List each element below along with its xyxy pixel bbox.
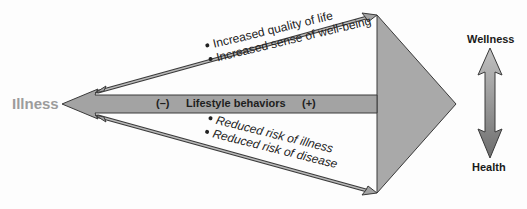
bullet-icon [208,56,213,61]
bullet-icon [205,43,210,48]
bullet-icon [208,116,213,121]
illness-label: Illness [12,96,59,111]
large-arrowhead-shape [377,15,456,193]
lifestyle-behaviors-label: Lifestyle behaviors [186,98,286,109]
wellness-illness-diagram: Illness (–) Lifestyle behaviors (+) Incr… [0,0,527,209]
bullet-icon [205,129,210,134]
double-headed-vertical-arrow-icon [478,48,502,158]
negative-marker: (–) [156,98,169,109]
health-label: Health [472,162,506,173]
wellness-label: Wellness [467,34,515,45]
positive-marker: (+) [302,98,316,109]
